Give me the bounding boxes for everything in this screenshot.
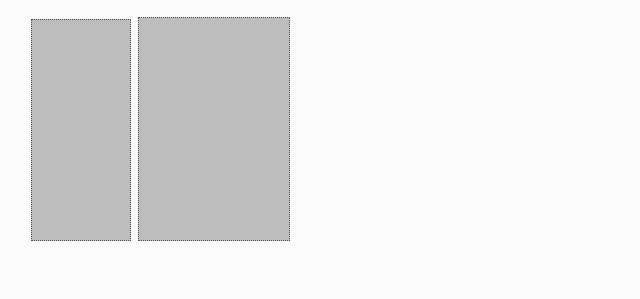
panel-1-input: [31, 19, 131, 241]
panel-3-zone: [138, 17, 290, 241]
step-marker-1: [35, 23, 57, 45]
